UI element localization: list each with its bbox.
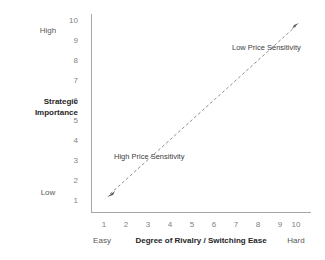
y-tick-3: 3: [62, 156, 78, 165]
x-tick-3: 3: [140, 220, 156, 229]
x-tick-10: 10: [285, 220, 307, 229]
annotation-high-price-sensitivity: High Price Sensitivity: [114, 152, 184, 161]
x-tick-6: 6: [206, 220, 222, 229]
trend-arrow-start-icon: [107, 191, 115, 197]
y-tick-1: 1: [62, 196, 78, 205]
x-tick-5: 5: [184, 220, 200, 229]
x-axis-hard-label: Hard: [280, 236, 312, 245]
x-tick-1: 1: [96, 220, 112, 229]
trend-arrow-end-icon: [292, 23, 299, 29]
y-tick-7: 7: [62, 76, 78, 85]
x-tick-7: 7: [228, 220, 244, 229]
y-tick-9: 9: [62, 36, 78, 45]
x-axis-easy-label: Easy: [86, 236, 118, 245]
y-axis-low-label: Low: [30, 188, 66, 197]
chart-canvas: 10 9 8 7 6 5 4 3 2 1 1 2 3 4 5 6 7 8 9 1…: [0, 0, 325, 260]
x-axis-title: Degree of Rivalry / Switching Ease: [121, 236, 281, 245]
x-tick-2: 2: [118, 220, 134, 229]
x-tick-4: 4: [162, 220, 178, 229]
annotation-low-price-sensitivity: Low Price Sensitivity: [232, 43, 301, 52]
x-axis-line: [91, 212, 311, 213]
y-axis-title: Strategic Importance: [8, 96, 78, 118]
y-tick-10: 10: [62, 16, 78, 25]
y-axis-high-label: High: [30, 26, 66, 35]
y-tick-2: 2: [62, 176, 78, 185]
y-tick-8: 8: [62, 56, 78, 65]
y-tick-4: 4: [62, 136, 78, 145]
y-axis-line: [91, 14, 92, 213]
x-tick-8: 8: [250, 220, 266, 229]
